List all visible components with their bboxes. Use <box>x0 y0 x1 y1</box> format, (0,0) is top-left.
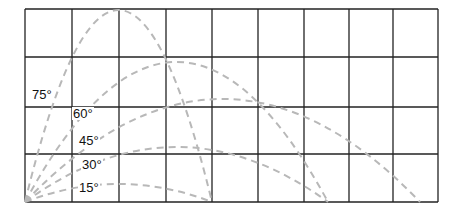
angle-label-30: 30° <box>81 158 103 171</box>
angle-label-60: 60° <box>72 107 94 120</box>
angle-label-75: 75° <box>31 88 53 101</box>
angle-label-45: 45° <box>78 134 100 147</box>
angle-label-15: 15° <box>78 181 100 194</box>
trajectory-30 <box>25 147 328 202</box>
trajectory-60 <box>25 62 328 202</box>
trajectory-diagram <box>0 0 460 213</box>
